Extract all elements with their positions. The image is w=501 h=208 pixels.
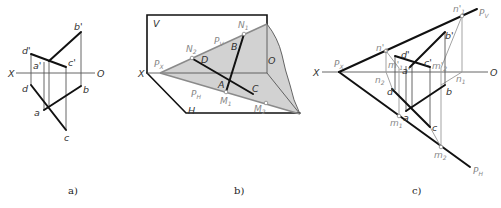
o-label-c: O <box>490 67 498 78</box>
point-m2 <box>439 145 443 149</box>
caption-b: b) <box>234 185 244 196</box>
x-label-c: X <box>312 67 320 78</box>
point-n1 <box>242 32 246 36</box>
figure-a: X O b' d' a' c' d b a c a) <box>7 21 105 196</box>
label-b: b <box>83 84 89 95</box>
point-m1 <box>224 90 228 94</box>
label-v: V <box>153 18 161 29</box>
point-m2 <box>264 101 268 105</box>
o-label-a: O <box>97 68 105 79</box>
label-c-prime: c' <box>68 57 76 68</box>
label-ph-c: PH <box>473 166 483 177</box>
label-x-b: X <box>137 68 145 79</box>
diagram-canvas: X O b' d' a' c' d b a c a) <box>0 0 501 208</box>
label-n2: n2 <box>375 75 385 86</box>
label-c: c <box>64 132 70 143</box>
line-a-b-prime <box>49 32 81 61</box>
label-a: a <box>34 107 40 118</box>
caption-a: a) <box>68 185 78 196</box>
label-C: C <box>252 83 259 94</box>
label-d-c: d <box>387 86 394 97</box>
x-label-a: X <box>7 68 15 79</box>
label-ph: PH <box>191 89 201 100</box>
label-pv: PV <box>214 36 224 47</box>
label-h: H <box>188 105 195 116</box>
label-o-b: O <box>268 55 276 66</box>
line-a-b <box>44 86 81 110</box>
label-b-c: b <box>446 86 452 97</box>
label-n2: N2 <box>186 44 197 55</box>
label-m1p: m'1 <box>388 60 403 71</box>
trace-pv-c <box>339 9 477 72</box>
label-n1: N1 <box>238 20 249 31</box>
label-D: D <box>201 54 208 65</box>
label-d: d <box>22 83 29 94</box>
label-d-prime: d' <box>22 45 31 56</box>
figure-b: V H X O PX PV PH N1 N2 M1 M2 B A C D b) <box>137 15 300 196</box>
label-B: B <box>231 41 238 52</box>
label-n2p: n'2 <box>376 43 388 54</box>
label-pv-c: PV <box>479 8 489 19</box>
label-d-prime-c: d' <box>401 49 410 60</box>
label-n1p: n'1 <box>453 4 465 15</box>
label-n1: n1 <box>456 74 466 85</box>
label-m2: M2 <box>254 104 266 115</box>
label-A: A <box>217 79 225 90</box>
label-b-prime-c: b' <box>445 30 454 41</box>
label-c-prime-c: c' <box>424 57 432 68</box>
label-m1: m1 <box>390 118 403 129</box>
point-n2 <box>190 56 194 60</box>
label-a-c: a <box>403 112 409 123</box>
label-a-prime-c: a' <box>402 65 410 76</box>
label-px-c: PX <box>334 59 344 70</box>
label-a-prime: a' <box>33 60 41 71</box>
label-c-c: c <box>432 122 438 133</box>
caption-c: c) <box>412 185 422 196</box>
label-m2: m2 <box>434 150 447 161</box>
label-px: PX <box>154 59 164 70</box>
figure-c: X O PX PV PH n'1 <box>312 4 498 196</box>
label-b-prime: b' <box>74 21 83 32</box>
label-m1: M1 <box>220 96 232 107</box>
